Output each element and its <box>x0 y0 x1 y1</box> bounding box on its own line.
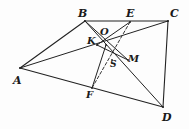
vertex-dot-K <box>96 44 98 46</box>
segment-BD <box>85 21 163 107</box>
vertex-dot-C <box>167 20 169 22</box>
geometry-canvas <box>0 0 189 129</box>
vertex-label-S: S <box>110 60 117 69</box>
vertex-dot-E <box>129 21 131 23</box>
segment-AB <box>20 21 85 68</box>
solid-segment-group <box>20 21 168 107</box>
vertex-label-E: E <box>126 8 134 19</box>
vertex-dot-D <box>162 106 164 108</box>
geometry-figure: ABECDFOKSM <box>0 0 189 129</box>
vertex-dot-B <box>84 20 86 22</box>
vertex-label-M: M <box>128 54 139 64</box>
vertex-label-A: A <box>13 75 22 86</box>
segment-OF <box>92 45 106 88</box>
vertex-label-K: K <box>87 36 96 46</box>
vertex-dot-O <box>105 44 107 46</box>
vertex-label-O: O <box>100 27 109 37</box>
vertex-label-B: B <box>78 8 87 19</box>
vertex-dot-group <box>19 20 169 108</box>
vertex-dot-A <box>19 67 21 69</box>
vertex-label-D: D <box>162 112 172 123</box>
segment-CD <box>163 21 168 107</box>
vertex-label-C: C <box>170 8 179 19</box>
vertex-label-F: F <box>86 90 93 100</box>
